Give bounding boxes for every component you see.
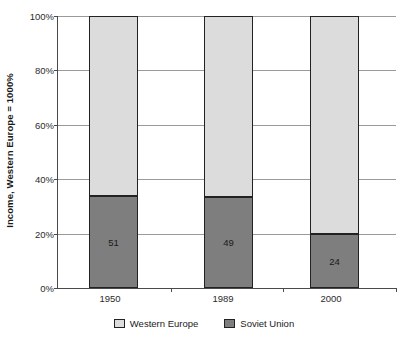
bar-value-label-1989: 49 [205, 237, 252, 248]
y-tick-label-20: 20% [20, 228, 54, 239]
y-tickmark-40 [54, 179, 58, 180]
y-tickmark-80 [54, 70, 58, 71]
bar-value-label-2000: 24 [311, 255, 358, 266]
x-tick-label-1950: 1950 [57, 293, 163, 304]
x-tick-label-1989: 1989 [170, 293, 276, 304]
legend-swatch-soviet-union-icon [224, 319, 235, 328]
y-tick-label-100: 100% [20, 11, 54, 22]
bar-segment-soviet-union-1989[interactable]: 49 [204, 197, 253, 288]
y-tick-label-0: 0% [20, 283, 54, 294]
bar-segment-western-europe-2000[interactable] [310, 16, 359, 234]
plot-area: 51 49 24 [57, 16, 396, 289]
x-tick-label-2000: 2000 [278, 293, 384, 304]
chart-legend: Western Europe Soviet Union [0, 318, 408, 329]
y-tickmark-100 [54, 16, 58, 17]
legend-swatch-western-europe-icon [114, 319, 125, 328]
legend-label-soviet-union: Soviet Union [240, 318, 294, 329]
y-tick-label-80: 80% [20, 65, 54, 76]
legend-item-soviet-union[interactable]: Soviet Union [224, 318, 294, 329]
bar-segment-soviet-union-1950[interactable]: 51 [89, 196, 138, 289]
y-tick-label-60: 60% [20, 119, 54, 130]
bar-segment-soviet-union-2000[interactable]: 24 [310, 234, 359, 288]
y-tickmark-20 [54, 234, 58, 235]
x-tickmark-1 [171, 288, 172, 292]
bar-segment-western-europe-1989[interactable] [204, 16, 253, 197]
bar-group-1989[interactable]: 49 [204, 16, 253, 288]
stacked-bar-chart: Income, Western Europe = 1000% 100% 80% … [0, 0, 408, 345]
legend-label-western-europe: Western Europe [130, 318, 198, 329]
bar-group-2000[interactable]: 24 [310, 16, 359, 288]
y-axis-tick-labels: 100% 80% 60% 40% 20% 0% [18, 0, 54, 345]
y-axis-title: Income, Western Europe = 1000% [0, 0, 18, 300]
y-tick-label-40: 40% [20, 174, 54, 185]
y-tickmark-0 [54, 288, 58, 289]
legend-item-western-europe[interactable]: Western Europe [114, 318, 198, 329]
x-tickmark-3 [396, 288, 397, 292]
bar-segment-western-europe-1950[interactable] [89, 16, 138, 196]
x-tickmark-2 [283, 288, 284, 292]
bar-group-1950[interactable]: 51 [89, 16, 138, 288]
y-axis-title-label: Income, Western Europe = 1000% [4, 73, 15, 228]
y-tickmark-60 [54, 125, 58, 126]
bar-value-label-1950: 51 [90, 236, 137, 247]
